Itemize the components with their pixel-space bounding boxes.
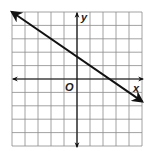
coordinate-graph: y x O [0,0,148,151]
origin-label: O [65,81,74,93]
x-axis-label: x [132,82,140,94]
y-axis-label: y [80,11,88,23]
